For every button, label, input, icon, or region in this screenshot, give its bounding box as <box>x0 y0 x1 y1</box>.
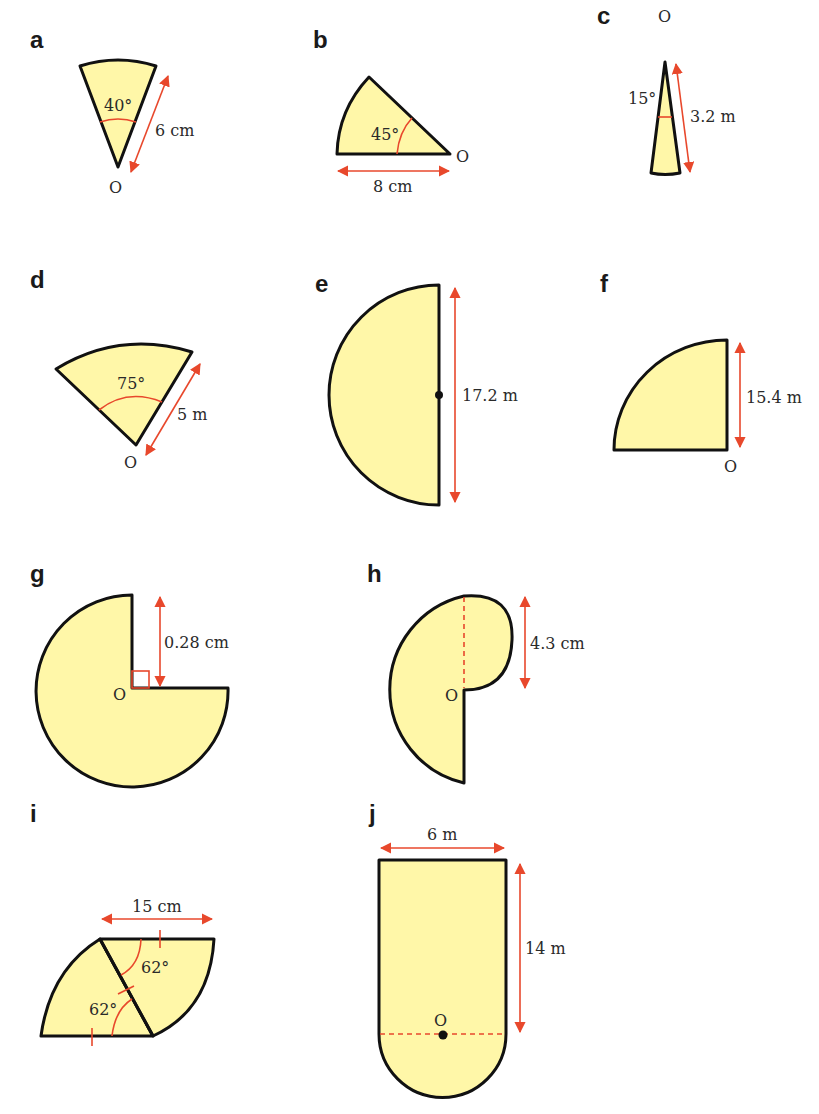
length-label: 4.3 cm <box>530 634 585 653</box>
center-label: O <box>109 178 122 197</box>
center-label: O <box>724 457 737 476</box>
length-label: 6 cm <box>155 121 194 140</box>
figure-label: h <box>367 560 382 587</box>
center-label: O <box>445 686 458 705</box>
figure-label: f <box>600 270 609 297</box>
length-label: 15.4 m <box>746 388 802 407</box>
center-label: O <box>658 7 671 26</box>
figure-g: g 0.28 cm O <box>30 560 229 787</box>
figure-label: e <box>315 270 328 297</box>
height-label: 14 m <box>525 939 566 958</box>
figures-canvas: a 40° 6 cm O b 45° 8 cm O c O 15° 3.2 m … <box>0 0 819 1114</box>
angle-label-1: 62° <box>141 958 169 977</box>
length-label: 17.2 m <box>462 386 518 405</box>
center-label: O <box>124 453 137 472</box>
length-label: 15 cm <box>132 897 182 916</box>
right-angle-mark <box>132 671 149 688</box>
figure-label: b <box>313 26 328 53</box>
figure-f: f 15.4 m O <box>600 270 802 476</box>
angle-label: 75° <box>117 374 145 393</box>
figure-i: i 62° 62° 15 cm <box>30 800 214 1046</box>
figure-a: a 40° 6 cm O <box>30 26 194 197</box>
figure-label: i <box>30 800 37 827</box>
width-label: 6 m <box>427 825 457 844</box>
length-label: 3.2 m <box>690 107 736 126</box>
figure-e: e 17.2 m <box>315 270 518 505</box>
center-dot <box>439 1031 448 1040</box>
figure-j: j O 6 m 14 m <box>368 800 566 1098</box>
length-label: 8 cm <box>373 177 412 196</box>
figure-label: g <box>30 560 45 587</box>
figure-label: j <box>368 800 376 827</box>
angle-label: 40° <box>104 96 132 115</box>
figure-label: a <box>30 26 44 53</box>
figure-c: c O 15° 3.2 m <box>597 2 736 175</box>
figure-label: c <box>597 2 610 29</box>
angle-label: 45° <box>371 125 399 144</box>
length-label: 0.28 cm <box>164 633 229 652</box>
length-label: 5 m <box>177 405 207 424</box>
figure-d: d 75° 5 m O <box>30 266 207 472</box>
center-label: O <box>113 685 126 704</box>
angle-label: 15° <box>628 89 656 108</box>
figure-label: d <box>30 266 45 293</box>
figure-h: h 4.3 cm O <box>367 560 585 783</box>
center-dot <box>435 391 443 399</box>
center-label: O <box>434 1011 447 1030</box>
center-label: O <box>456 147 469 166</box>
figure-b: b 45° 8 cm O <box>313 26 469 196</box>
angle-label-2: 62° <box>89 1000 117 1019</box>
